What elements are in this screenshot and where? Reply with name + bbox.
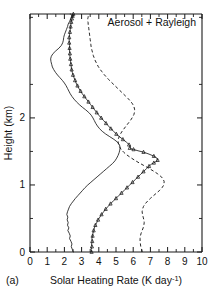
- figure-panel-a: 012345678910012 Solar Heating Rate (K da…: [0, 0, 218, 302]
- curve-dashed: [88, 14, 164, 252]
- y-tick-label: 0: [19, 247, 25, 258]
- panel-label: (a): [6, 274, 19, 286]
- y-tick-label: 2: [19, 112, 25, 123]
- x-tick-label: 5: [113, 256, 119, 267]
- data-curves: [51, 12, 165, 253]
- x-tick-label: 10: [196, 256, 208, 267]
- x-tick-label: 9: [182, 256, 188, 267]
- x-tick-label: 6: [130, 256, 136, 267]
- x-tick-label: 3: [79, 256, 85, 267]
- aerosol-rayleigh-annotation: Aerosol + Rayleigh: [108, 16, 197, 28]
- x-tick-label: 7: [148, 256, 154, 267]
- curve-solid-thin: [51, 14, 120, 252]
- x-tick-label: 4: [96, 256, 102, 267]
- solar-heating-rate-chart: 012345678910012 Solar Heating Rate (K da…: [0, 0, 218, 302]
- x-tick-label: 8: [165, 256, 171, 267]
- x-tick-label: 2: [62, 256, 68, 267]
- x-axis-title: Solar Heating Rate (K day-1): [50, 274, 182, 286]
- curve-triangle-marked: [69, 14, 157, 252]
- x-tick-label: 0: [27, 256, 33, 267]
- axis-tick-labels: 012345678910012: [19, 112, 208, 267]
- y-axis-title: Height (km): [2, 106, 14, 160]
- y-tick-label: 1: [19, 179, 25, 190]
- x-tick-label: 1: [44, 256, 50, 267]
